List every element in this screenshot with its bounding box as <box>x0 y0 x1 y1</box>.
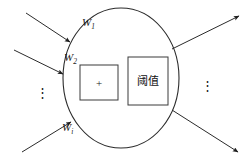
input-arrow-w2 <box>14 50 63 74</box>
output-arrow-top <box>172 16 239 49</box>
summation-box-label: + <box>96 77 102 89</box>
input-vertical-ellipsis: ⋮ <box>36 85 49 100</box>
input-arrow-w1 <box>26 13 70 42</box>
diagram-canvas: W1 W2 Wi ⋮ ⋮ + 阈值 <box>0 0 250 162</box>
threshold-box-label: 阈值 <box>137 74 159 88</box>
output-arrow-bottom <box>172 110 238 152</box>
weight-label-w2: W2 <box>64 51 77 66</box>
neuron-model-diagram: W1 W2 Wi ⋮ ⋮ + 阈值 <box>0 0 250 162</box>
weight-label-wi: Wi <box>62 121 73 136</box>
weight-label-w1: W1 <box>82 16 95 31</box>
output-vertical-ellipsis: ⋮ <box>201 78 214 93</box>
